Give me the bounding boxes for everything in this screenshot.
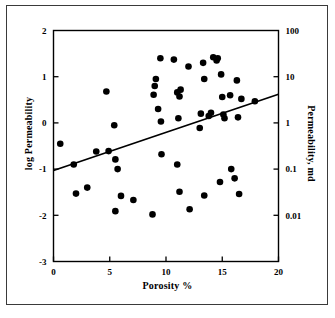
y-axis-right-title: Permeability, md — [306, 64, 317, 224]
data-point — [217, 179, 224, 186]
data-point — [228, 166, 235, 173]
data-point — [231, 175, 238, 182]
data-point — [234, 77, 241, 84]
data-point — [177, 86, 184, 93]
x-tick-label: 15 — [218, 267, 228, 277]
data-point — [158, 118, 165, 125]
data-point — [219, 94, 226, 101]
x-tick-label: 10 — [162, 267, 172, 277]
y-axis-left-title: log Permeability — [23, 54, 34, 214]
data-point — [218, 71, 225, 78]
y2-tick-label: 0.01 — [286, 211, 302, 221]
data-point — [57, 140, 64, 147]
data-point — [158, 151, 165, 158]
y2-tick-label: 100 — [286, 26, 300, 36]
data-point — [171, 56, 178, 63]
data-point — [252, 98, 259, 105]
data-point — [70, 161, 77, 168]
y-tick-label: -1 — [39, 164, 47, 174]
data-point — [84, 184, 91, 191]
data-point — [103, 88, 110, 95]
y-tick-label: 0 — [42, 118, 47, 128]
data-point — [73, 190, 80, 197]
y-tick-label: -3 — [39, 257, 47, 267]
data-point — [150, 91, 157, 98]
data-point — [175, 115, 182, 122]
x-axis-title: Porosity % — [0, 280, 335, 291]
data-point — [105, 148, 112, 155]
plot-frame — [54, 31, 279, 262]
data-point — [153, 76, 160, 83]
data-point — [186, 206, 193, 213]
data-point — [214, 55, 221, 62]
data-point — [130, 197, 137, 204]
y2-tick-label: 10 — [286, 72, 296, 82]
trend-line — [54, 94, 279, 170]
data-point — [238, 96, 245, 103]
data-point — [93, 148, 100, 155]
chart-figure: 05101520210-1-2-31001010.10.01 Porosity … — [0, 0, 335, 318]
x-tick-label: 0 — [51, 267, 56, 277]
y2-tick-label: 0.1 — [286, 164, 298, 174]
data-point — [114, 166, 121, 173]
scatter-plot: 05101520210-1-2-31001010.10.01 — [0, 0, 335, 318]
data-point — [198, 110, 205, 117]
y-tick-label: -2 — [39, 211, 47, 221]
data-point — [235, 114, 242, 121]
data-point — [155, 106, 162, 113]
data-point — [201, 192, 208, 199]
y-tick-label: 2 — [42, 26, 47, 36]
data-point — [112, 208, 119, 215]
data-point — [201, 76, 208, 83]
x-tick-label: 20 — [274, 267, 284, 277]
y-tick-label: 1 — [42, 72, 47, 82]
data-point — [149, 211, 156, 218]
data-point — [176, 188, 183, 195]
data-point — [151, 83, 158, 90]
y2-tick-label: 1 — [286, 118, 291, 128]
data-point — [176, 93, 183, 100]
data-point — [174, 161, 181, 168]
data-point — [227, 92, 234, 99]
data-point — [112, 156, 119, 163]
data-point — [185, 63, 192, 70]
data-point — [118, 193, 125, 200]
x-tick-label: 5 — [108, 267, 113, 277]
data-point — [157, 55, 164, 62]
data-point — [236, 191, 243, 198]
data-point — [200, 60, 207, 67]
data-point — [196, 125, 203, 132]
data-point — [221, 115, 228, 122]
data-point — [111, 122, 118, 129]
data-point — [208, 109, 215, 116]
